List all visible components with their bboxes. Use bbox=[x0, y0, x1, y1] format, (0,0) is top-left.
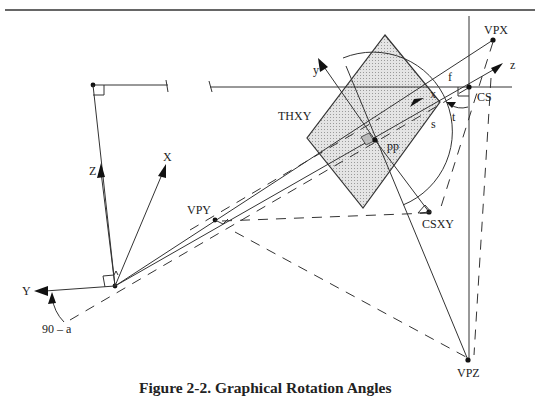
label-f: f bbox=[448, 70, 452, 84]
VPX-point bbox=[490, 37, 495, 42]
Y-axis-arrowhead bbox=[34, 286, 48, 296]
label-z: z bbox=[510, 58, 515, 72]
label-Z: Z bbox=[89, 164, 96, 178]
VPY-to-CSXY-dashed-line bbox=[222, 213, 430, 221]
label-THXY: THXY bbox=[278, 109, 312, 123]
label-VPY: VPY bbox=[187, 203, 211, 217]
label-pp: pp bbox=[387, 139, 399, 153]
principal-point bbox=[372, 137, 377, 142]
label-s: s bbox=[431, 117, 436, 131]
picture-plane-rectangle bbox=[307, 35, 440, 208]
VPZ-point bbox=[465, 357, 470, 362]
label-VPX: VPX bbox=[484, 23, 508, 37]
VPY-to-VPZ-dashed-line bbox=[235, 232, 466, 357]
small-angle-mark-origin bbox=[114, 271, 118, 275]
right-angle-mark-origin bbox=[103, 275, 114, 287]
Z-axis bbox=[101, 172, 115, 286]
Z-axis-arrowhead bbox=[97, 163, 105, 178]
CS-to-VPZ-dashed-line bbox=[474, 78, 491, 355]
break-mark-left bbox=[166, 80, 168, 92]
label-CSXY: CSXY bbox=[422, 217, 454, 231]
X-axis bbox=[115, 172, 163, 286]
label-CS: CS bbox=[477, 90, 492, 104]
VPX-dashed-line bbox=[440, 42, 493, 210]
label-x: x bbox=[430, 87, 436, 101]
label-t: t bbox=[452, 110, 456, 124]
label-Y: Y bbox=[22, 284, 31, 298]
right-angle-mark-CSXY bbox=[418, 205, 431, 213]
figure-caption: Figure 2-2. Graphical Rotation Angles bbox=[139, 379, 391, 396]
label-y: y bbox=[313, 63, 319, 77]
CS-point bbox=[466, 84, 471, 89]
graphical-rotation-angles-diagram: VPX z f CS x t s y THXY pp CSXY VPY VPZ … bbox=[0, 0, 535, 416]
label-VPZ: VPZ bbox=[457, 366, 480, 380]
z-axis-arrowhead bbox=[491, 63, 503, 74]
Y-axis bbox=[45, 286, 115, 291]
label-90-minus-a: 90 – a bbox=[42, 322, 72, 336]
X-axis-arrowhead bbox=[158, 164, 166, 178]
angle-arc-arrowhead bbox=[48, 292, 56, 304]
label-X: X bbox=[163, 150, 172, 164]
origin-to-z-line bbox=[115, 66, 500, 286]
